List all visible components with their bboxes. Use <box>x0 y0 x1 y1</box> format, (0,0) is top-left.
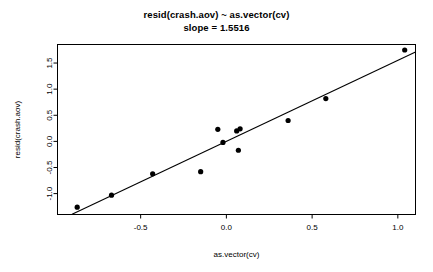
data-point <box>323 96 328 101</box>
regression-line <box>72 52 415 214</box>
y-tick-label: 0.0 <box>46 135 55 147</box>
x-tick-label: -0.5 <box>134 223 148 232</box>
data-point <box>75 205 80 210</box>
data-point <box>150 171 155 176</box>
data-point <box>109 193 114 198</box>
x-axis-title: as.vector(cv) <box>214 250 260 259</box>
scatter-plot-figure: resid(crash.aov) ~ as.vector(cv) slope =… <box>0 0 433 272</box>
x-tick-label: 0.5 <box>307 223 319 232</box>
x-tick-label: 1.0 <box>392 223 404 232</box>
y-tick-label: 1.0 <box>46 83 55 95</box>
data-point <box>198 169 203 174</box>
data-point <box>238 126 243 131</box>
y-tick-label: -0.5 <box>46 160 55 174</box>
data-point <box>286 118 291 123</box>
y-axis-title: resid(crash.aov) <box>13 100 22 158</box>
data-point <box>402 47 407 52</box>
data-point <box>220 140 225 145</box>
data-point <box>215 127 220 132</box>
data-point <box>236 148 241 153</box>
y-tick-label: -1.0 <box>46 186 55 200</box>
x-tick-label: 0.0 <box>221 223 233 232</box>
plot-canvas: -0.50.00.51.0-1.0-0.50.00.51.01.5as.vect… <box>0 0 433 272</box>
y-tick-label: 0.5 <box>46 109 55 121</box>
y-tick-label: 1.5 <box>46 57 55 69</box>
